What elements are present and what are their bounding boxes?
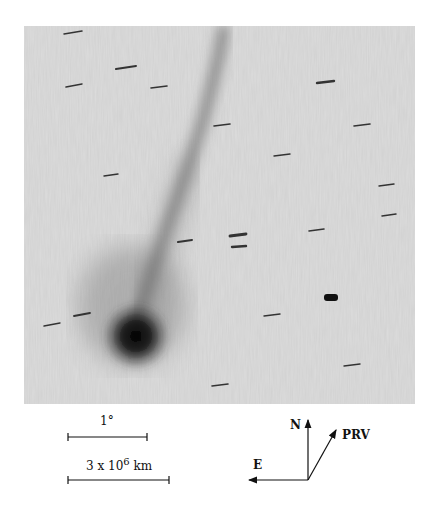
- bright-star: [324, 294, 338, 301]
- comet-head: [102, 302, 170, 370]
- scale-bar-km: [68, 476, 169, 484]
- compass-label-north: N: [290, 418, 301, 432]
- compass-label-east: E: [253, 458, 262, 472]
- scale-label-km-unit: km: [134, 459, 153, 473]
- compass-label-prv: PRV: [342, 428, 370, 442]
- scale-bar-degree: [68, 433, 147, 441]
- comet-image: [24, 26, 415, 404]
- scale-label-degree: 1°: [100, 414, 114, 428]
- scale-label-km-exp: 6: [123, 456, 129, 467]
- scale-label-km-base: 3 x 10: [86, 459, 123, 473]
- scale-label-km: 3 x 106 km: [86, 456, 152, 473]
- prv-arrow: [308, 430, 336, 480]
